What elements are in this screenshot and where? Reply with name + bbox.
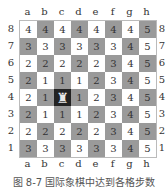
file-label-e: e [87, 158, 104, 170]
rank-label-2: 2 [5, 122, 17, 139]
square-b3: 1 [37, 106, 54, 123]
square-g4: 4 [122, 89, 139, 106]
file-label-d: d [70, 158, 87, 170]
square-c7: 3 [54, 38, 71, 55]
square-g7: 4 [122, 38, 139, 55]
rank-label-5: 5 [156, 71, 168, 88]
square-e3: 2 [88, 106, 105, 123]
square-f4: 3 [105, 89, 122, 106]
square-e7: 3 [88, 38, 105, 55]
square-f8: 4 [105, 21, 122, 38]
square-c3: 1 [54, 106, 71, 123]
square-b4: 1 [37, 89, 54, 106]
square-b6: 2 [37, 55, 54, 72]
file-label-h: h [138, 6, 155, 18]
square-b5: 1 [37, 72, 54, 89]
square-f7: 3 [105, 38, 122, 55]
square-d3: 1 [71, 106, 88, 123]
square-d5: 1 [71, 72, 88, 89]
rank-label-5: 5 [5, 71, 17, 88]
file-label-b: b [36, 6, 53, 18]
square-a8: 4 [20, 21, 37, 38]
square-b2: 2 [37, 123, 54, 140]
file-label-f: f [104, 6, 121, 18]
square-b7: 3 [37, 38, 54, 55]
square-c1: 3 [54, 140, 71, 157]
rank-label-8: 8 [156, 20, 168, 37]
rank-label-6: 6 [5, 54, 17, 71]
figure-caption: 图 8-7 国际象棋中达到各格步数 [0, 174, 168, 187]
square-a4: 2 [20, 89, 37, 106]
square-h2: 5 [139, 123, 156, 140]
file-label-g: g [121, 6, 138, 18]
square-f3: 3 [105, 106, 122, 123]
square-g2: 4 [122, 123, 139, 140]
square-a6: 2 [20, 55, 37, 72]
square-g8: 4 [122, 21, 139, 38]
square-f5: 3 [105, 72, 122, 89]
square-a1: 3 [20, 140, 37, 157]
square-a7: 3 [20, 38, 37, 55]
square-f1: 3 [105, 140, 122, 157]
rank-labels-left: 87654321 [5, 20, 17, 156]
rank-label-4: 4 [5, 88, 17, 105]
square-g1: 4 [122, 140, 139, 157]
rank-label-7: 7 [5, 37, 17, 54]
square-g5: 4 [122, 72, 139, 89]
square-h5: 5 [139, 72, 156, 89]
square-c5: 1 [54, 72, 71, 89]
square-e6: 2 [88, 55, 105, 72]
square-d2: 2 [71, 123, 88, 140]
square-e5: 2 [88, 72, 105, 89]
square-c6: 2 [54, 55, 71, 72]
file-labels-bottom: abcdefgh [19, 158, 155, 170]
file-label-b: b [36, 158, 53, 170]
rank-label-2: 2 [156, 122, 168, 139]
square-d4: 1 [71, 89, 88, 106]
rank-label-1: 1 [156, 139, 168, 156]
file-label-h: h [138, 158, 155, 170]
file-label-f: f [104, 158, 121, 170]
square-e4: 2 [88, 89, 105, 106]
square-c2: 2 [54, 123, 71, 140]
rank-label-1: 1 [5, 139, 17, 156]
square-h8: 5 [139, 21, 156, 38]
square-e1: 3 [88, 140, 105, 157]
square-f2: 3 [105, 123, 122, 140]
file-label-c: c [53, 6, 70, 18]
square-h4: 5 [139, 89, 156, 106]
rank-label-7: 7 [156, 37, 168, 54]
square-h1: 5 [139, 140, 156, 157]
square-e8: 4 [88, 21, 105, 38]
square-g6: 4 [122, 55, 139, 72]
file-label-d: d [70, 6, 87, 18]
file-label-a: a [19, 6, 36, 18]
square-f6: 3 [105, 55, 122, 72]
rook-icon: ♜ [54, 89, 71, 106]
square-c8: 4 [54, 21, 71, 38]
square-a2: 2 [20, 123, 37, 140]
rank-label-4: 4 [156, 88, 168, 105]
file-label-c: c [53, 158, 70, 170]
square-h3: 5 [139, 106, 156, 123]
file-label-g: g [121, 158, 138, 170]
square-e2: 2 [88, 123, 105, 140]
square-g3: 4 [122, 106, 139, 123]
rank-label-6: 6 [156, 54, 168, 71]
rank-labels-right: 87654321 [156, 20, 168, 156]
square-a3: 2 [20, 106, 37, 123]
chess-board: 4444444533333345222223452111234521♜12345… [19, 20, 157, 158]
square-b1: 3 [37, 140, 54, 157]
square-b8: 4 [37, 21, 54, 38]
square-h7: 5 [139, 38, 156, 55]
square-h6: 5 [139, 55, 156, 72]
square-d6: 2 [71, 55, 88, 72]
file-label-e: e [87, 6, 104, 18]
rank-label-8: 8 [5, 20, 17, 37]
rank-label-3: 3 [5, 105, 17, 122]
file-label-a: a [19, 158, 36, 170]
square-d7: 3 [71, 38, 88, 55]
square-a5: 2 [20, 72, 37, 89]
square-d1: 3 [71, 140, 88, 157]
square-d8: 4 [71, 21, 88, 38]
